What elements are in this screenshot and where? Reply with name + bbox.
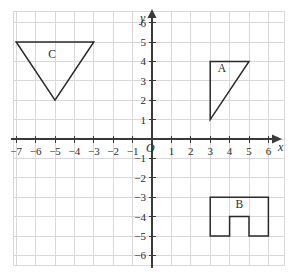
coordinate-plane-svg: −7−6−5−4−3−2−1123456654321−1−2−3−4−5−6 A… <box>0 0 291 274</box>
y-tick-label: −1 <box>134 152 146 164</box>
y-tick-label: 5 <box>141 36 147 48</box>
x-tick-label: −6 <box>30 145 42 157</box>
y-tick-label: 4 <box>141 55 147 67</box>
y-tick-label: 2 <box>141 94 147 106</box>
x-tick-label: −3 <box>88 145 100 157</box>
y-tick-label: −3 <box>134 191 146 203</box>
x-tick-label: 6 <box>266 145 272 157</box>
y-tick-label: −6 <box>134 249 146 261</box>
y-tick-label: −2 <box>134 172 146 184</box>
shape-label-a: A <box>218 62 227 74</box>
origin-label: O <box>146 141 155 155</box>
shape-labels: ABC <box>48 48 243 210</box>
x-tick-label: 2 <box>188 145 194 157</box>
y-tick-label: 1 <box>141 114 147 126</box>
x-tick-label: 1 <box>169 145 175 157</box>
y-tick-label: 3 <box>141 75 147 87</box>
x-tick-label: 3 <box>207 145 213 157</box>
x-tick-label: −5 <box>49 145 61 157</box>
y-tick-label: −5 <box>134 230 146 242</box>
y-axis-arrowhead <box>148 9 157 18</box>
x-tick-label: −4 <box>69 145 81 157</box>
coordinate-grid-figure: −7−6−5−4−3−2−1123456654321−1−2−3−4−5−6 A… <box>0 0 291 274</box>
x-tick-label: 4 <box>227 145 233 157</box>
shape-label-b: B <box>235 198 243 210</box>
x-tick-label: −2 <box>107 145 119 157</box>
x-tick-label: −7 <box>10 145 22 157</box>
y-tick-label: −4 <box>134 211 146 223</box>
y-axis-label: y <box>139 11 146 25</box>
x-tick-label: 5 <box>246 145 252 157</box>
x-axis-label: x <box>277 140 284 154</box>
shape-label-c: C <box>48 48 56 60</box>
